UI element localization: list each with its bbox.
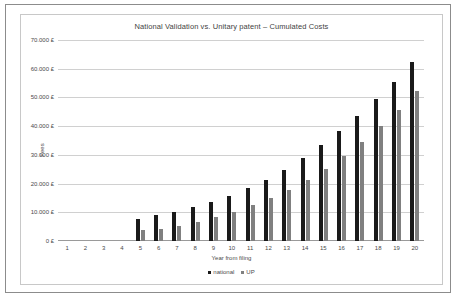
legend-item-national: national [208,269,234,275]
x-tick-label: 5 [139,245,142,251]
bar-national [136,219,140,241]
bar-national [227,196,231,241]
bar-national [246,188,250,241]
x-tick-label: 10 [228,245,235,251]
bar-group: 7 [168,40,186,241]
bar-UP [306,180,310,241]
bar-national [209,202,213,241]
y-tick-label: 0 £ [46,238,54,244]
bar-national [191,207,195,241]
bar-groups: 1234567891011121314151617181920 [58,40,424,241]
bar-group: 13 [278,40,296,241]
y-tick-label: 20.000 £ [31,181,54,187]
bar-UP [196,222,200,241]
x-tick-label: 20 [411,245,418,251]
x-tick-label: 19 [393,245,400,251]
bar-group: 19 [387,40,405,241]
x-tick-label: 17 [357,245,364,251]
x-tick-label: 6 [157,245,160,251]
bar-group: 8 [186,40,204,241]
bar-group: 2 [76,40,94,241]
y-tick-label: 60.000 £ [31,66,54,72]
bar-national [319,145,323,241]
bar-UP [397,110,401,242]
bar-UP [360,142,364,241]
bar-group: 9 [204,40,222,241]
bar-UP [159,229,163,241]
bar-group: 4 [113,40,131,241]
bar-UP [342,156,346,241]
bar-national [154,215,158,241]
legend-swatch-icon [208,271,211,274]
x-tick-label: 14 [302,245,309,251]
bar-UP [415,91,419,241]
y-tick-label: 30.000 £ [31,152,54,158]
legend-item-UP: UP [241,269,254,275]
x-tick-label: 12 [265,245,272,251]
plot-area: 0 £10.000 £20.000 £30.000 £40.000 £50.00… [58,40,424,241]
x-tick-label: 7 [175,245,178,251]
bar-UP [177,226,181,242]
bar-group: 5 [131,40,149,241]
x-tick-label: 1 [65,245,68,251]
bar-national [264,180,268,241]
x-tick-label: 2 [84,245,87,251]
bar-national [337,131,341,241]
bar-group: 12 [259,40,277,241]
bar-group: 14 [296,40,314,241]
chart-page: National Validation vs. Unitary patent –… [0,0,457,298]
x-tick-label: 18 [375,245,382,251]
x-tick-label: 15 [320,245,327,251]
bar-group: 17 [351,40,369,241]
bar-UP [379,126,383,241]
bar-UP [251,205,255,241]
y-tick-label: 70.000 £ [31,37,54,43]
bar-group: 6 [149,40,167,241]
bar-national [282,170,286,241]
bar-group: 10 [223,40,241,241]
bar-group: 18 [369,40,387,241]
bar-national [410,62,414,241]
bar-UP [324,169,328,241]
bar-UP [214,217,218,241]
bar-UP [141,230,145,241]
x-tick-label: 11 [247,245,253,251]
x-tick-label: 16 [338,245,345,251]
bar-national [301,158,305,241]
legend-label: UP [246,269,254,275]
chart-frame: National Validation vs. Unitary patent –… [20,14,443,285]
bar-group: 1 [58,40,76,241]
x-tick-label: 9 [212,245,215,251]
y-tick-label: 40.000 £ [31,123,54,129]
bar-national [392,82,396,241]
bar-UP [269,198,273,241]
bar-UP [287,190,291,241]
bar-UP [232,212,236,241]
chart-title: National Validation vs. Unitary patent –… [21,22,442,31]
x-axis-title: Year from filing [21,255,442,261]
bar-group: 16 [332,40,350,241]
bar-group: 20 [406,40,424,241]
x-tick-label: 8 [194,245,197,251]
legend-swatch-icon [241,271,244,274]
x-tick-label: 3 [102,245,105,251]
bar-group: 15 [314,40,332,241]
bar-group: 11 [241,40,259,241]
bar-national [172,212,176,241]
x-tick-label: 4 [120,245,123,251]
bar-national [355,116,359,241]
x-tick-label: 13 [283,245,290,251]
chart-legend: nationalUP [21,269,442,275]
bar-national [374,99,378,241]
y-tick-label: 10.000 £ [31,209,54,215]
legend-label: national [213,269,234,275]
y-tick-label: 50.000 £ [31,94,54,100]
bar-group: 3 [95,40,113,241]
